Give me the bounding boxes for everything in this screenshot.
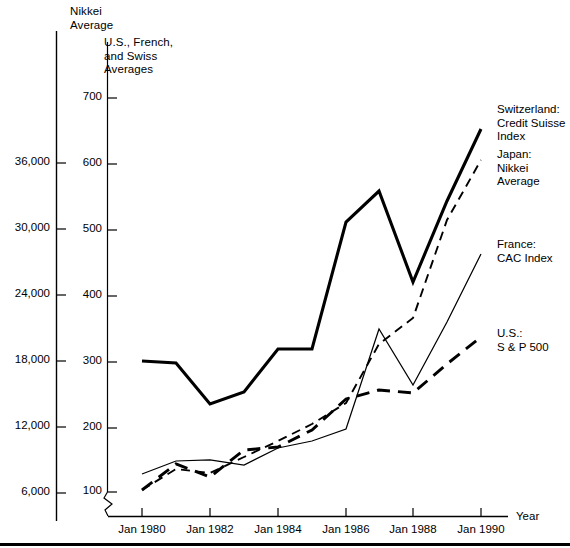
y2-tick-label-500: 500 [60, 222, 102, 234]
series-label-france: France: CAC Index [497, 238, 553, 265]
x-axis-title: Year [516, 510, 539, 522]
series-label-switzerland-line1: Switzerland: [497, 103, 560, 115]
series-label-japan: Japan: Nikkei Average [497, 148, 540, 189]
series-label-us-line1: U.S.: [497, 327, 523, 339]
x-axis [108, 508, 508, 517]
series-label-switzerland: Switzerland: Credit Suisse Index [497, 103, 565, 144]
x-tick-label-jan-1990: Jan 1990 [441, 523, 521, 535]
y2-tick-label-200: 200 [60, 420, 102, 432]
y-tick-label-36000: 36,000 [0, 155, 50, 167]
bottom-rule [0, 543, 570, 546]
y-tick-label-18000: 18,000 [0, 353, 50, 365]
y-tick-label-30000: 30,000 [0, 221, 50, 233]
plot-area [0, 0, 570, 548]
y-tick-label-24000: 24,000 [0, 287, 50, 299]
series-label-us-line2: S & P 500 [497, 341, 549, 353]
secondary-y-axis [104, 42, 117, 516]
y2-tick-label-100: 100 [60, 484, 102, 496]
y-tick-label-6000: 6,000 [0, 485, 50, 497]
series-label-japan-line3: Average [497, 175, 540, 187]
y2-tick-label-600: 600 [60, 156, 102, 168]
axis-break-symbol [104, 492, 112, 516]
series-label-us: U.S.: S & P 500 [497, 327, 549, 354]
y2-tick-label-300: 300 [60, 354, 102, 366]
series-label-japan-line1: Japan: [497, 148, 532, 160]
series-label-france-line2: CAC Index [497, 252, 553, 264]
primary-y-axis [57, 31, 67, 521]
series-label-switzerland-line3: Index [497, 130, 525, 142]
series-line-france [142, 254, 481, 474]
chart-container: NikkeiAverage U.S., French,and SwissAver… [0, 0, 570, 548]
series-label-france-line1: France: [497, 238, 536, 250]
series-line-us [142, 337, 481, 490]
series-label-japan-line2: Nikkei [497, 162, 528, 174]
y2-tick-label-700: 700 [60, 90, 102, 102]
y-tick-label-12000: 12,000 [0, 419, 50, 431]
y2-tick-label-400: 400 [60, 288, 102, 300]
series-label-switzerland-line2: Credit Suisse [497, 117, 565, 129]
